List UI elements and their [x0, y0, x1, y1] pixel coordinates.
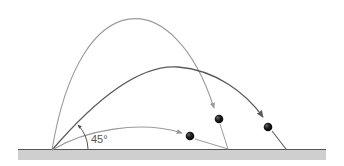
arc-45-degree [52, 67, 263, 150]
arc-high-angle [52, 19, 214, 150]
angle-label: 45° [91, 133, 108, 145]
projectile-diagram [0, 0, 344, 166]
landing-line-high [220, 124, 228, 149]
ground-strip [18, 149, 326, 160]
arc-low-angle [52, 127, 182, 150]
landing-line-45 [272, 131, 286, 149]
trajectory-high-angle [52, 19, 228, 150]
ball-icon [186, 132, 195, 141]
trajectory-45-degree [52, 67, 286, 150]
ground [18, 149, 326, 160]
ball-icon [264, 123, 273, 132]
trajectory-low-angle [52, 127, 228, 150]
landing-line-low [195, 139, 228, 149]
ball-icon [215, 115, 224, 124]
